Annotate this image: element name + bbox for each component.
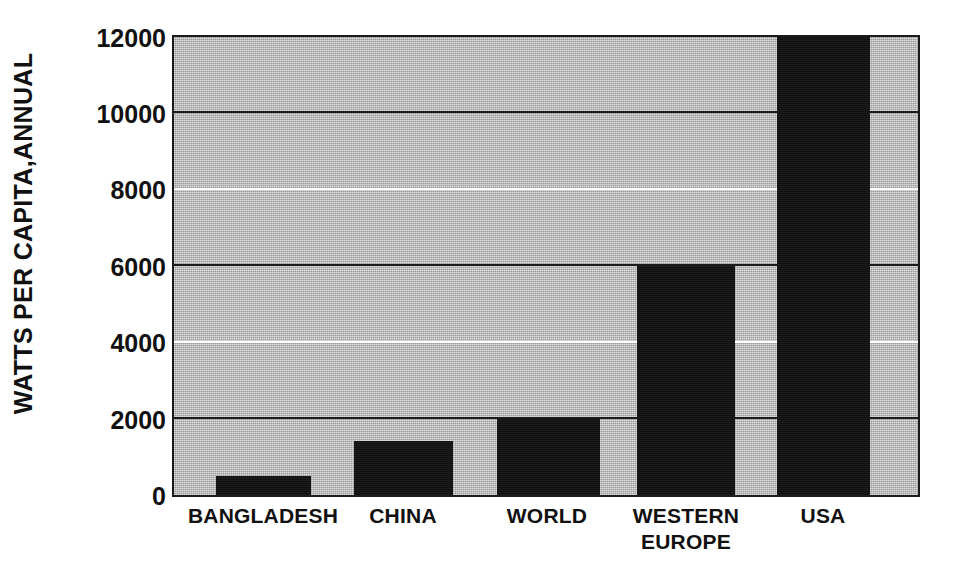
x-tick-label-bangladesh: BANGLADESH <box>188 503 338 529</box>
bar-western-europe <box>637 266 735 495</box>
x-tick-label-western-europe: WESTERN EUROPE <box>633 503 739 554</box>
x-tick-label-usa: USA <box>801 503 846 529</box>
y-tick-label-12000: 12000 <box>88 26 166 51</box>
y-axis-tick-labels: 12000 10000 8000 6000 4000 2000 0 <box>88 0 166 573</box>
y-tick-label-0: 0 <box>88 484 166 509</box>
bar-china <box>354 441 453 495</box>
y-tick-label-2000: 2000 <box>88 408 166 433</box>
y-tick-label-10000: 10000 <box>88 102 166 127</box>
y-tick-label-6000: 6000 <box>88 255 166 280</box>
y-tick-label-8000: 8000 <box>88 178 166 203</box>
bar-chart: WATTS PER CAPITA,ANNUAL 12000 10000 8000… <box>0 0 959 573</box>
x-tick-label-world: WORLD <box>507 503 587 529</box>
x-tick-label-china: CHINA <box>369 503 437 529</box>
bar-bangladesh <box>216 476 311 495</box>
bar-world <box>497 418 600 495</box>
x-axis-tick-labels: BANGLADESH CHINA WORLD WESTERN EUROPE US… <box>172 503 920 573</box>
y-axis-title: WATTS PER CAPITA,ANNUAL <box>0 0 46 520</box>
plot-area <box>172 35 920 497</box>
bar-usa <box>777 35 870 495</box>
plot-inner <box>174 37 918 495</box>
y-tick-label-4000: 4000 <box>88 331 166 356</box>
